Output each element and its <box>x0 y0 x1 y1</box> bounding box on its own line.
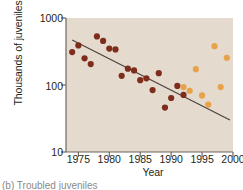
figure-caption: (b) Troubled juveniles <box>2 180 98 190</box>
data-point <box>149 87 155 93</box>
data-point <box>94 33 100 39</box>
plot-background <box>66 18 233 152</box>
data-point <box>88 61 94 67</box>
data-point <box>119 73 125 79</box>
data-point <box>180 84 186 90</box>
x-axis-title: Year <box>66 166 240 178</box>
data-point <box>69 49 75 55</box>
y-axis-title: Thousands of juveniles <box>12 0 24 123</box>
data-point <box>187 88 193 94</box>
data-point <box>137 77 143 83</box>
data-point <box>180 92 186 98</box>
y-tick-label-1000: 1000 <box>40 12 63 24</box>
data-point <box>211 43 217 49</box>
data-point <box>162 104 168 110</box>
data-point <box>193 66 199 72</box>
data-point <box>224 55 230 61</box>
data-point <box>131 67 137 73</box>
data-point <box>75 42 81 48</box>
data-point <box>156 70 162 76</box>
x-tick-label-2000: 2000 <box>221 153 243 165</box>
figure-container: 1000 100 10 Thousands of juveniles 19751… <box>0 0 243 190</box>
x-tick-label-1990: 1990 <box>159 153 182 165</box>
data-point <box>106 45 112 51</box>
x-tick-label-1980: 1980 <box>98 153 121 165</box>
data-point <box>112 46 118 52</box>
data-point <box>168 95 174 101</box>
y-tick-label-10: 10 <box>51 146 63 158</box>
x-tick-label-1985: 1985 <box>129 153 152 165</box>
x-tick-label-1995: 1995 <box>190 153 213 165</box>
x-tick-label-1975: 1975 <box>67 153 90 165</box>
data-point <box>81 55 87 61</box>
data-point <box>125 66 131 72</box>
data-point <box>100 38 106 44</box>
data-point <box>199 92 205 98</box>
y-axis-tick-labels: 1000 100 10 <box>22 0 63 190</box>
data-point <box>174 83 180 89</box>
data-point <box>218 84 224 90</box>
data-point <box>143 75 149 81</box>
data-point <box>205 101 211 107</box>
y-tick-label-100: 100 <box>45 80 63 92</box>
